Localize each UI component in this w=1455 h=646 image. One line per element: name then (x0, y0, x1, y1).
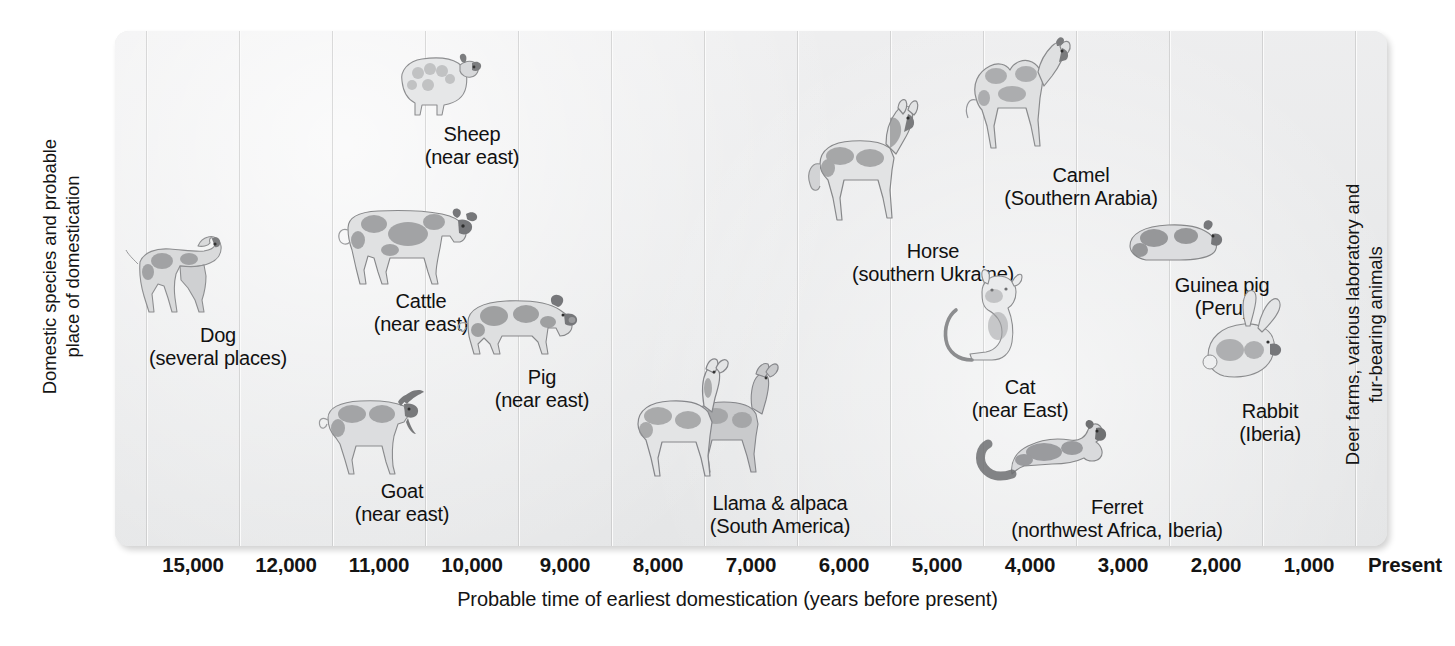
x-tick: 7,000 (726, 553, 776, 577)
entry-cat-caption: Cat (near East) (930, 376, 1110, 422)
entry-dog: Dog (several places) (118, 228, 318, 370)
entry-goat-caption: Goat (near east) (312, 480, 492, 526)
entry-cat: Cat (near East) (930, 268, 1110, 422)
entry-dog-caption: Dog (several places) (118, 324, 318, 370)
entry-sheep-caption: Sheep (near east) (382, 123, 562, 169)
right-note-line2: fur-bearing animals (1365, 246, 1386, 402)
y-axis-title-line2: place of domestication (62, 176, 83, 358)
entry-goat-place: (near east) (312, 503, 492, 526)
entry-dog-name: Dog (200, 324, 236, 346)
entry-goat: Goat (near east) (312, 382, 492, 526)
llama-alpaca-illustration (620, 358, 940, 492)
entry-camel-name: Camel (1053, 164, 1110, 186)
entry-ferret: Ferret (northwest Africa, Iberia) (952, 418, 1282, 542)
x-tick: 2,000 (1191, 553, 1241, 577)
x-tick: 8,000 (633, 553, 683, 577)
entry-camel-caption: Camel (Southern Arabia) (952, 164, 1210, 210)
entry-ferret-caption: Ferret (northwest Africa, Iberia) (952, 496, 1282, 542)
entry-sheep-place: (near east) (382, 146, 562, 169)
entry-pig-name: Pig (528, 366, 556, 388)
domestication-timeline-figure: Domestic species and probable place of d… (0, 0, 1455, 646)
guinea-pig-illustration (1120, 212, 1324, 274)
cattle-illustration (330, 192, 512, 290)
right-side-annotation: Deer farms, various laboratory and fur-b… (1342, 115, 1387, 535)
entry-goat-name: Goat (381, 480, 424, 502)
sheep-illustration (382, 45, 562, 123)
entry-camel: Camel (Southern Arabia) (952, 28, 1210, 210)
entry-horse-name: Horse (907, 240, 959, 262)
x-tick: 1,000 (1284, 553, 1334, 577)
x-tick: 4,000 (1005, 553, 1055, 577)
entry-llama-alpaca: Llama & alpaca (South America) (620, 358, 940, 538)
x-tick: 11,000 (349, 553, 409, 577)
entry-llama-alpaca-caption: Llama & alpaca (South America) (620, 492, 940, 538)
y-axis-title: Domestic species and probable place of d… (39, 57, 84, 477)
entry-ferret-place: (northwest Africa, Iberia) (952, 519, 1282, 542)
x-tick: 5,000 (912, 553, 962, 577)
pig-illustration (452, 288, 632, 366)
x-tick: 10,000 (441, 553, 503, 577)
entry-llama-alpaca-name: Llama & alpaca (712, 492, 847, 514)
entry-cattle-name: Cattle (395, 290, 446, 312)
dog-illustration (118, 228, 318, 324)
entry-llama-alpaca-place: (South America) (620, 515, 940, 538)
y-axis-title-line1: Domestic species and probable (39, 139, 60, 394)
entry-cat-name: Cat (1005, 376, 1036, 398)
x-tick: 12,000 (255, 553, 317, 577)
entry-sheep: Sheep (near east) (382, 45, 562, 169)
camel-illustration (952, 28, 1210, 164)
ferret-illustration (952, 418, 1282, 496)
rabbit-illustration (1190, 288, 1350, 400)
x-tick: 15,000 (162, 553, 224, 577)
x-tick: Present (1368, 553, 1442, 577)
entry-ferret-name: Ferret (1091, 496, 1143, 518)
goat-illustration (312, 382, 492, 480)
entry-sheep-name: Sheep (444, 123, 501, 145)
x-tick: 3,000 (1098, 553, 1148, 577)
x-tick: 6,000 (819, 553, 869, 577)
cat-illustration (930, 268, 1110, 376)
right-note-line1: Deer farms, various laboratory and (1342, 184, 1363, 465)
x-axis-tick-labels: 15,000 12,000 11,000 10,000 9,000 8,000 … (115, 553, 1387, 581)
x-tick: 9,000 (540, 553, 590, 577)
x-axis-title: Probable time of earliest domestication … (0, 588, 1455, 611)
entry-camel-place: (Southern Arabia) (952, 187, 1210, 210)
entry-dog-place: (several places) (118, 347, 318, 370)
